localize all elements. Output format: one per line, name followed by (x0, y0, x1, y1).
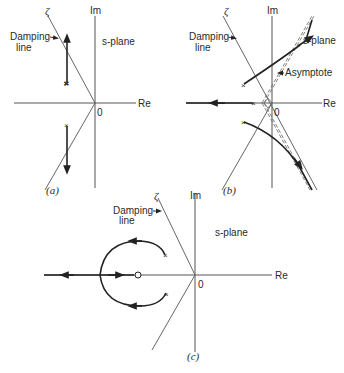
damping-line-lower (222, 103, 272, 190)
origin-label: 0 (198, 279, 204, 290)
damping-line-upper (158, 198, 195, 275)
damping-label: Damping (10, 31, 50, 42)
root-locus-figure: × × Im Re 0 s-plane ζ Damping line (a) × (0, 0, 344, 373)
zero-marker (135, 272, 141, 278)
asymptote-lower (262, 103, 310, 190)
damping-symbol: ζ (45, 5, 51, 18)
plane-label: s-plane (303, 35, 336, 46)
damping-line-upper (48, 16, 95, 103)
origin-label: 0 (274, 107, 280, 118)
panel-caption: (b) (223, 184, 236, 197)
real-axis-label: Re (138, 98, 151, 109)
damping-line-lower (152, 275, 195, 350)
panel-caption: (a) (46, 184, 59, 197)
origin-label: 0 (97, 107, 103, 118)
damping-label: Damping (189, 31, 229, 42)
imag-axis-label: Im (267, 5, 278, 16)
pole-marker: × (64, 79, 69, 88)
panel-a: × × Im Re 0 s-plane ζ Damping line (a) (10, 5, 151, 197)
panel-c: × × Im Re 0 s-plane ζ Damping line (c) (44, 190, 288, 363)
pole-marker: × (241, 118, 246, 127)
pole-marker: × (163, 251, 168, 260)
locus-circle-upper (100, 241, 165, 275)
damping-label-line2: line (195, 42, 211, 53)
panel-caption: (c) (187, 350, 200, 363)
plane-label: s-plane (102, 36, 135, 47)
damping-label-line2: line (16, 42, 32, 53)
pole-marker: × (164, 290, 169, 299)
pole-marker: × (241, 81, 246, 90)
locus-circle-lower (100, 275, 166, 306)
damping-pointer (50, 37, 56, 38)
asymptote-upper (262, 16, 312, 103)
plane-label: s-plane (215, 227, 248, 238)
damping-symbol: ζ (224, 5, 230, 18)
asymptote-label: Asymptote (285, 67, 333, 78)
pole-marker: × (251, 99, 256, 108)
imag-axis-label: Im (90, 5, 101, 16)
real-axis-label: Re (323, 98, 336, 109)
damping-line-lower (45, 103, 95, 190)
panel-b: × × × Im Re 0 s-plane ζ Damping line Asy… (186, 5, 336, 197)
damping-label-line2: line (119, 215, 135, 226)
pole-marker: × (64, 121, 69, 130)
real-axis-label: Re (275, 270, 288, 281)
imag-axis-label: Im (190, 190, 201, 201)
